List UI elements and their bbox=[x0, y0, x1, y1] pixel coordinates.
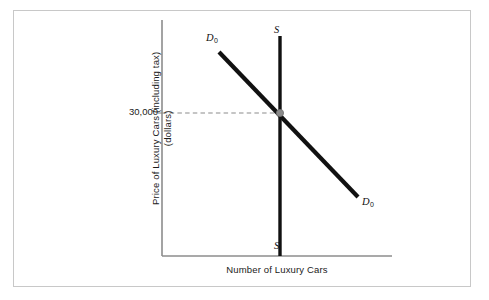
y-axis-title: Price of Luxury Cars (including tax) (do… bbox=[150, 51, 175, 204]
y-axis-tick-label-30000: 30,000 bbox=[106, 106, 158, 117]
equilibrium-point-marker bbox=[276, 109, 283, 116]
y-axis-title-line-2: (dollars) bbox=[163, 51, 175, 204]
y-axis-title-line-1: Price of Luxury Cars (including tax) bbox=[150, 51, 161, 204]
demand-subscript-upper: 0 bbox=[214, 37, 218, 44]
demand-curve-label-upper: D0 bbox=[206, 32, 218, 43]
supply-curve-label-bottom: S bbox=[274, 240, 279, 251]
demand-curve-label-lower: D0 bbox=[362, 196, 374, 207]
x-axis-title: Number of Luxury Cars bbox=[162, 264, 392, 276]
demand-letter-lower: D bbox=[362, 196, 370, 207]
economics-supply-demand-figure: Price of Luxury Cars (including tax) (do… bbox=[0, 0, 489, 300]
demand-letter-upper: D bbox=[206, 32, 214, 43]
supply-curve-label-top: S bbox=[274, 24, 279, 35]
demand-subscript-lower: 0 bbox=[370, 201, 374, 208]
demand-curve bbox=[219, 52, 358, 197]
y-axis-title-container: Price of Luxury Cars (including tax) (do… bbox=[0, 0, 160, 256]
